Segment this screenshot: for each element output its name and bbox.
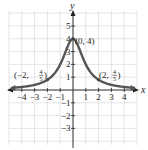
svg-text:(−2,: (−2, [14, 70, 29, 80]
x-axis-label: x [140, 84, 146, 95]
svg-text:4: 4 [40, 69, 43, 75]
chart: −4−3−2−11234−3−2−112345 x y (0, 4) (−2, … [0, 0, 148, 150]
y-axis-label: y [69, 0, 75, 11]
right-annotation: (2, 4 5 ) [99, 69, 121, 83]
left-annotation: (−2, 4 5 ) [14, 69, 47, 83]
peak-annotation: (0, 4) [75, 36, 95, 46]
y-tick-label: 5 [66, 21, 71, 31]
x-tick-label: 2 [96, 92, 101, 102]
svg-text:5: 5 [40, 76, 43, 82]
x-tick-label: 1 [84, 92, 89, 102]
x-tick-label: 4 [122, 92, 127, 102]
y-tick-label: 2 [66, 59, 71, 69]
svg-text:4: 4 [113, 69, 116, 75]
svg-text:(2,: (2, [99, 70, 109, 80]
x-tick-label: −4 [17, 92, 27, 102]
svg-text:): ) [44, 70, 47, 80]
y-tick-label: −2 [61, 111, 71, 121]
y-tick-label: 1 [66, 72, 71, 82]
x-tick-label: −2 [43, 92, 53, 102]
x-tick-label: −3 [30, 92, 40, 102]
y-tick-label: −1 [61, 98, 71, 108]
svg-text:5: 5 [113, 76, 116, 82]
y-tick-label: −3 [61, 123, 71, 133]
svg-text:): ) [118, 70, 121, 80]
x-tick-label: 3 [109, 92, 114, 102]
